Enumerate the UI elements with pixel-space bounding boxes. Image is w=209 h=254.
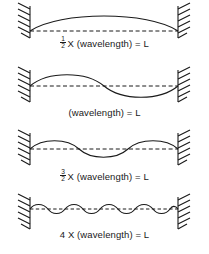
panel-one-wavelength: (wavelength) = L [0, 64, 209, 106]
hatched-wall-right [178, 3, 190, 38]
hatched-wall-left [18, 3, 30, 38]
hatched-wall-left [18, 130, 30, 165]
caption-text-1: X (wavelength) = L [68, 39, 149, 49]
panel-four-wavelengths: 4 X (wavelength) = L [0, 192, 209, 232]
hatched-wall-left [18, 194, 30, 229]
fraction-1: 1 2 [60, 36, 66, 51]
fraction-3: 3 2 [60, 169, 66, 184]
hatched-wall-right [178, 194, 190, 229]
wave-diagram-4 [0, 192, 209, 232]
wave-curve [30, 205, 178, 214]
hatched-wall-left [18, 67, 30, 102]
wave-diagram-3 [0, 128, 209, 170]
caption-text-2: (wavelength) = L [68, 108, 140, 118]
caption-text-4: 4 X (wavelength) = L [60, 230, 149, 240]
caption-text-3: X (wavelength) = L [68, 172, 149, 182]
hatched-wall-right [178, 130, 190, 165]
panel-half-wavelength: 1 2 X (wavelength) = L [0, 0, 209, 40]
caption-2: (wavelength) = L [0, 107, 209, 118]
caption-4: 4 X (wavelength) = L [0, 229, 209, 240]
hatched-wall-right [178, 67, 190, 102]
wave-diagram-2 [0, 64, 209, 106]
standing-wave-figure: 1 2 X (wavelength) = L [0, 0, 209, 254]
panel-three-halves-wavelength: 3 2 X (wavelength) = L [0, 128, 209, 170]
caption-1: 1 2 X (wavelength) = L [0, 36, 209, 51]
caption-3: 3 2 X (wavelength) = L [0, 169, 209, 184]
wave-curve [30, 16, 178, 31]
wave-diagram-1 [0, 0, 209, 40]
